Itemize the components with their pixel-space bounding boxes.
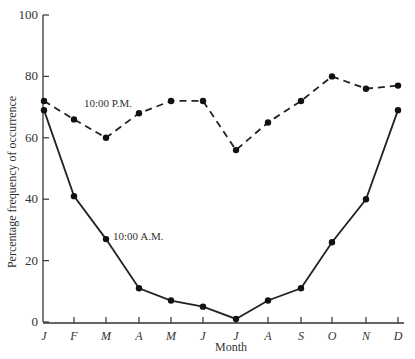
- x-tick-label: J: [200, 329, 206, 343]
- x-tick-label: N: [361, 329, 371, 343]
- series-group: [41, 73, 401, 322]
- x-tick-label: M: [165, 329, 177, 343]
- data-point: [298, 98, 304, 104]
- data-point: [395, 82, 401, 88]
- y-tick-label: 20: [25, 253, 38, 268]
- axes: 020406080100JFMAMJJASOND: [19, 7, 405, 343]
- x-tick-label: F: [69, 329, 78, 343]
- y-tick-label: 0: [32, 314, 39, 329]
- data-point: [41, 107, 47, 113]
- x-tick-label: S: [298, 329, 304, 343]
- data-point: [200, 303, 206, 309]
- series-label-10pm: 10:00 P.M.: [84, 97, 132, 109]
- data-point: [395, 107, 401, 113]
- data-point: [329, 73, 335, 79]
- x-tick-label: A: [263, 329, 272, 343]
- series-line-10am: [44, 110, 398, 319]
- y-tick-label: 40: [25, 191, 38, 206]
- y-tick-label: 80: [25, 68, 38, 83]
- data-point: [136, 285, 142, 291]
- data-point: [233, 147, 239, 153]
- data-point: [363, 85, 369, 91]
- data-point: [329, 239, 335, 245]
- data-point: [168, 297, 174, 303]
- data-point: [233, 316, 239, 322]
- series-label-10am: 10:00 A.M.: [113, 230, 164, 242]
- x-axis-title: Month: [215, 340, 247, 354]
- data-point: [41, 98, 47, 104]
- data-point: [168, 98, 174, 104]
- data-point: [363, 196, 369, 202]
- y-tick-label: 100: [19, 7, 39, 22]
- x-tick-label: A: [134, 329, 143, 343]
- x-tick-label: J: [41, 329, 47, 343]
- data-point: [265, 297, 271, 303]
- data-point: [103, 135, 109, 141]
- x-tick-label: D: [393, 329, 403, 343]
- data-point: [103, 236, 109, 242]
- y-axis-title: Percentage frequency of occurrence: [5, 96, 19, 268]
- line-chart: 020406080100JFMAMJJASOND MonthPercentage…: [0, 0, 415, 359]
- data-point: [71, 193, 77, 199]
- y-tick-label: 60: [25, 130, 38, 145]
- labels-group: MonthPercentage frequency of occurrence1…: [5, 96, 247, 354]
- data-point: [200, 98, 206, 104]
- x-tick-label: O: [328, 329, 337, 343]
- series-line-10pm: [44, 76, 398, 150]
- data-point: [265, 119, 271, 125]
- data-point: [71, 116, 77, 122]
- x-tick-label: M: [100, 329, 112, 343]
- data-point: [298, 285, 304, 291]
- data-point: [136, 110, 142, 116]
